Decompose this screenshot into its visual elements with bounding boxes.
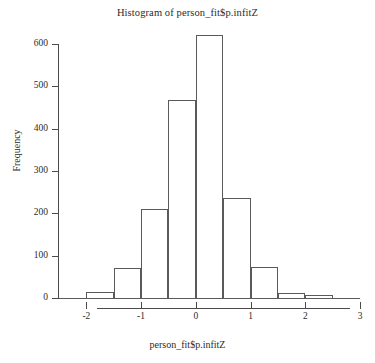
histogram-bar <box>168 100 195 298</box>
y-axis-tick-label: 300 <box>34 166 48 176</box>
histogram-bar <box>86 292 113 298</box>
histogram-figure: Histogram of person_fit$p.infitZ Frequen… <box>0 0 375 363</box>
histogram-bar <box>305 295 332 298</box>
y-axis-label: Frequency <box>11 111 22 191</box>
x-axis-tick <box>305 302 306 309</box>
y-axis-tick <box>52 44 59 45</box>
y-axis-tick-label: 0 <box>43 293 48 303</box>
histogram-bar <box>196 35 223 298</box>
x-axis-tick <box>251 302 252 309</box>
histogram-bar <box>141 209 168 298</box>
x-axis-tick <box>196 302 197 309</box>
x-axis-tick-label: 2 <box>290 312 320 322</box>
y-axis-tick <box>52 298 59 299</box>
x-axis-label: person_fit$p.infitZ <box>0 339 375 350</box>
histogram-bar <box>114 268 141 298</box>
histogram-bar <box>223 198 250 298</box>
y-axis-tick-label: 600 <box>34 39 48 49</box>
histogram-bars <box>59 34 360 298</box>
x-axis-tick-label: 0 <box>181 312 211 322</box>
y-axis-tick-label: 400 <box>34 124 48 134</box>
y-axis-tick-label: 500 <box>34 81 48 91</box>
y-axis-tick <box>52 213 59 214</box>
y-axis-tick <box>52 171 59 172</box>
y-axis-tick <box>52 86 59 87</box>
y-axis-tick <box>52 129 59 130</box>
x-axis-tick <box>86 302 87 309</box>
x-axis-tick <box>141 302 142 309</box>
x-axis-tick <box>360 302 361 309</box>
x-axis-line <box>97 308 350 309</box>
x-axis-tick-label: 1 <box>236 312 266 322</box>
x-axis-tick-label: -2 <box>71 312 101 322</box>
y-axis-tick-label: 200 <box>34 208 48 218</box>
plot-area <box>59 34 360 298</box>
plot-baseline <box>59 298 360 299</box>
y-axis-tick <box>52 256 59 257</box>
x-axis-tick-label: 3 <box>345 312 375 322</box>
histogram-bar <box>251 267 278 298</box>
x-axis-tick-label: -1 <box>126 312 156 322</box>
y-axis-tick-label: 100 <box>34 251 48 261</box>
histogram-bar <box>278 293 305 298</box>
chart-title: Histogram of person_fit$p.infitZ <box>0 7 375 18</box>
